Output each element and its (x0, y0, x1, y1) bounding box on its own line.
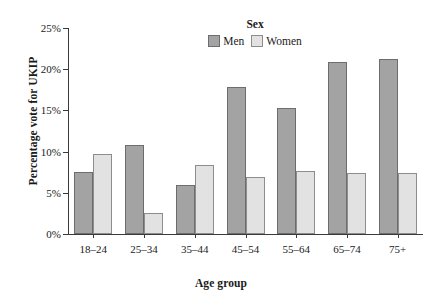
legend-label: Men (223, 35, 244, 47)
x-tick-mark (144, 234, 145, 238)
bar-women (246, 177, 265, 234)
bar-women (93, 154, 112, 234)
bar-group: 45–54 (220, 28, 271, 234)
legend-items: MenWomen (185, 35, 325, 47)
bar-women (195, 165, 214, 234)
x-tick-mark (246, 234, 247, 238)
bar-men (227, 87, 246, 234)
x-tick-label: 75+ (389, 243, 406, 255)
bar-men (277, 108, 296, 234)
bar-men (328, 62, 347, 234)
legend-swatch-women (251, 35, 263, 47)
x-tick-label: 35–44 (181, 243, 209, 255)
bar-women (144, 213, 163, 234)
legend-item-women[interactable]: Women (251, 35, 301, 47)
x-tick-label: 45–54 (232, 243, 260, 255)
bar-group: 25–34 (119, 28, 170, 234)
x-tick-label: 65–74 (333, 243, 361, 255)
bar-group: 75+ (372, 28, 423, 234)
x-tick-mark (398, 234, 399, 238)
bar-group: 55–64 (271, 28, 322, 234)
x-tick-mark (195, 234, 196, 238)
bar-group: 18–24 (68, 28, 119, 234)
plot-area: 0%5%10%15%20%25% 18–2425–3435–4445–5455–… (68, 28, 423, 234)
x-tick-mark (296, 234, 297, 238)
bar-groups: 18–2425–3435–4445–5455–6465–7475+ (68, 28, 423, 234)
y-tick-mark (63, 234, 68, 235)
y-axis-title: Percentage vote for UKIP (27, 26, 39, 216)
bar-women (398, 173, 417, 234)
bar-men (176, 185, 195, 234)
x-tick-mark (347, 234, 348, 238)
legend-swatch-men (208, 35, 220, 47)
bar-men (379, 59, 398, 235)
legend-title: Sex (185, 18, 325, 30)
ukip-vote-by-age-and-sex-chart: Percentage vote for UKIP Age group 0%5%1… (0, 0, 442, 300)
bar-women (347, 173, 366, 234)
bar-men (74, 172, 93, 234)
bar-group: 35–44 (169, 28, 220, 234)
legend-label: Women (266, 35, 301, 47)
x-tick-label: 18–24 (80, 243, 108, 255)
bar-women (296, 171, 315, 234)
x-tick-label: 55–64 (282, 243, 310, 255)
legend-item-men[interactable]: Men (208, 35, 244, 47)
x-tick-mark (93, 234, 94, 238)
legend: Sex MenWomen (185, 18, 325, 47)
bar-men (125, 145, 144, 234)
x-axis-title: Age group (0, 277, 442, 289)
x-tick-label: 25–34 (130, 243, 158, 255)
bar-group: 65–74 (322, 28, 373, 234)
